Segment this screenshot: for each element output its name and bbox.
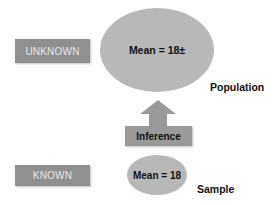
population-ellipse: Mean = 18± bbox=[100, 8, 214, 92]
inference-label: Inference bbox=[136, 131, 180, 142]
population-mean-text: Mean = 18± bbox=[129, 44, 185, 56]
sample-ellipse: Mean = 18 bbox=[127, 155, 187, 195]
arrow-head bbox=[140, 100, 176, 128]
inference-box: Inference bbox=[125, 126, 192, 146]
known-label: KNOWN bbox=[33, 170, 72, 181]
sample-label: Sample bbox=[197, 183, 234, 195]
unknown-label: UNKNOWN bbox=[25, 46, 79, 57]
inference-arrow-icon bbox=[140, 100, 176, 128]
unknown-box: UNKNOWN bbox=[15, 39, 90, 63]
sample-mean-text: Mean = 18 bbox=[133, 170, 181, 181]
known-box: KNOWN bbox=[15, 165, 90, 186]
population-label: Population bbox=[210, 81, 264, 93]
